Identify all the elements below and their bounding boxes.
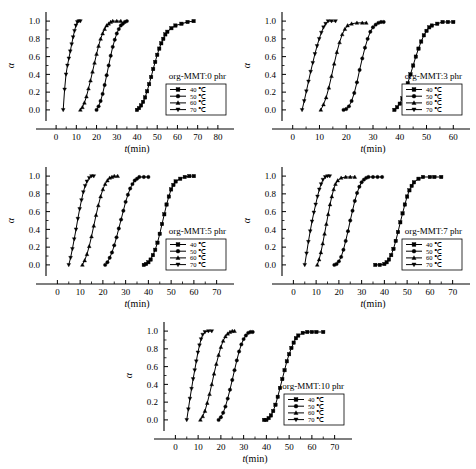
legend-marker	[176, 243, 180, 247]
legend-title: org-MMT:10 phr	[282, 381, 344, 391]
data-point	[342, 248, 345, 251]
data-point	[103, 83, 106, 86]
data-point	[346, 229, 349, 232]
legend: 40 ℃50 ℃60 ℃70 ℃	[166, 84, 226, 115]
data-point	[412, 181, 415, 184]
series-70-℃	[61, 20, 82, 112]
y-tick-label: 0.2	[147, 397, 158, 407]
x-tick-label: 50	[167, 287, 177, 297]
data-point	[85, 180, 89, 183]
y-tick-label: 0.8	[29, 189, 41, 199]
data-point	[358, 68, 361, 71]
data-point	[110, 251, 113, 254]
data-point	[93, 61, 97, 64]
data-point	[188, 397, 192, 400]
y-tick-label: 0.8	[265, 34, 277, 44]
data-point	[169, 188, 172, 191]
legend-title: org-MMT:3 phr	[405, 71, 462, 81]
x-tick-label: 10	[76, 287, 86, 297]
x-tick-label: 50	[403, 287, 413, 297]
data-point	[151, 67, 154, 70]
y-tick-label: 0.8	[29, 34, 41, 44]
data-point	[91, 70, 95, 73]
data-point	[67, 57, 71, 60]
x-tick-label: 10	[194, 442, 204, 452]
data-point	[156, 53, 159, 56]
data-point	[417, 47, 420, 50]
series-50-℃	[342, 20, 386, 111]
y-tick-label: 0.0	[147, 415, 159, 425]
data-point	[332, 187, 336, 190]
data-point	[95, 52, 99, 55]
y-tick-label: 0.2	[265, 242, 276, 252]
series-70-℃	[67, 175, 96, 267]
x-axis-title: t(min)	[125, 298, 150, 310]
chart-panel-5: 0.00.20.40.60.81.0010203040506070αt(min)…	[118, 312, 356, 469]
data-point	[349, 219, 352, 222]
data-point	[317, 37, 321, 40]
data-point	[306, 330, 309, 333]
data-point	[170, 27, 173, 30]
data-point	[228, 388, 231, 391]
y-tick-label: 0.6	[29, 52, 41, 62]
data-point	[190, 387, 194, 390]
data-point	[345, 107, 348, 110]
x-tick-label: 40	[395, 132, 405, 142]
data-point	[83, 259, 87, 262]
data-point	[90, 235, 94, 238]
data-point	[369, 30, 372, 33]
data-point	[87, 87, 91, 90]
data-point	[87, 244, 91, 247]
data-point	[387, 258, 390, 261]
legend: 40 ℃50 ℃60 ℃70 ℃	[284, 394, 344, 425]
data-point	[319, 108, 323, 111]
data-point	[301, 331, 304, 334]
x-tick-label: 40	[144, 287, 154, 297]
data-point	[324, 222, 328, 225]
data-point	[315, 45, 319, 48]
data-point	[147, 175, 150, 178]
data-point	[194, 360, 198, 363]
legend-entry-label: 70 ℃	[308, 416, 324, 423]
data-point	[309, 70, 313, 73]
legend-marker	[176, 94, 180, 98]
x-tick-label: 70	[448, 287, 458, 297]
data-point	[198, 344, 202, 347]
series-50-℃	[95, 19, 129, 111]
x-tick-label: 20	[98, 287, 108, 297]
data-point	[185, 418, 189, 421]
data-point	[99, 99, 102, 102]
legend-marker	[176, 88, 180, 92]
y-tick-label: 0.2	[265, 87, 276, 97]
data-point	[74, 24, 78, 27]
data-point	[101, 32, 105, 35]
x-tick-label: 20	[92, 132, 102, 142]
data-point	[160, 222, 163, 225]
data-point	[81, 105, 85, 108]
data-point	[160, 42, 163, 45]
data-point	[452, 20, 455, 23]
data-point	[217, 353, 221, 356]
data-point	[441, 20, 444, 23]
data-point	[330, 74, 334, 77]
y-tick-label: 0.6	[265, 207, 277, 217]
data-point	[85, 95, 89, 98]
y-tick-label: 0.0	[29, 260, 41, 270]
data-point	[128, 187, 131, 190]
x-tick-label: 30	[369, 132, 379, 142]
data-point	[180, 22, 183, 25]
data-point	[403, 203, 406, 206]
data-point	[109, 54, 112, 57]
data-point	[235, 359, 238, 362]
data-point	[237, 350, 240, 353]
data-point	[158, 47, 161, 50]
data-point	[350, 99, 353, 102]
legend-marker	[412, 88, 416, 92]
data-point	[314, 203, 318, 206]
data-point	[303, 263, 307, 266]
x-tick-label: 70	[212, 287, 222, 297]
y-tick-label: 0.0	[265, 105, 277, 115]
data-point	[327, 86, 331, 89]
legend-marker	[412, 249, 416, 253]
data-point	[405, 195, 408, 198]
